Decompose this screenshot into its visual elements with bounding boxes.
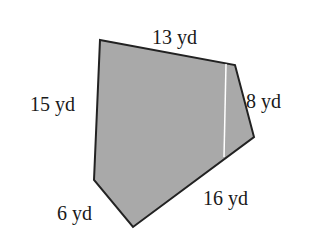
label-left: 15 yd [30,93,75,116]
pentagon-diagram: 13 yd 15 yd 8 yd 16 yd 6 yd [0,0,314,245]
label-bottom-right: 16 yd [203,187,248,210]
label-right: 8 yd [246,90,281,113]
label-top: 13 yd [152,26,197,49]
label-bottom-left: 6 yd [57,202,92,225]
